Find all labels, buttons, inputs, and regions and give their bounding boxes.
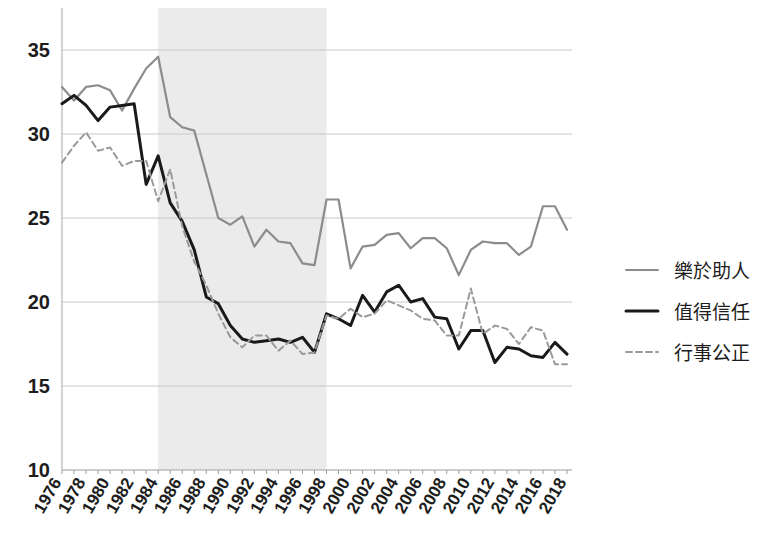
legend-label-0: 樂於助人 xyxy=(674,261,750,282)
y-tick-label: 20 xyxy=(28,291,50,313)
line-chart: 1015202530351976197819801982198419861988… xyxy=(0,0,769,550)
legend-label-1: 值得信任 xyxy=(674,302,750,323)
chart-container: 1015202530351976197819801982198419861988… xyxy=(0,0,769,550)
legend-label-2: 行事公正 xyxy=(674,343,750,364)
y-tick-label: 35 xyxy=(28,39,50,61)
y-tick-label: 25 xyxy=(28,207,50,229)
y-tick-label: 30 xyxy=(28,123,50,145)
y-tick-label: 15 xyxy=(28,375,50,397)
shaded-period-band xyxy=(158,8,326,470)
